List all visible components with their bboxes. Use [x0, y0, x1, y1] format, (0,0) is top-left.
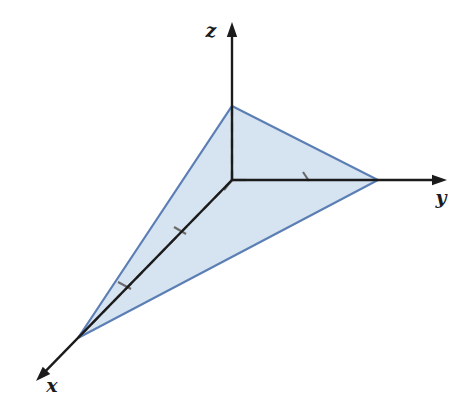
axis-x	[36, 180, 232, 381]
axis-label-y: y	[434, 186, 448, 208]
figure-canvas: x y z	[0, 0, 475, 415]
shaded-triangle-region	[78, 106, 378, 338]
axis-z-arrowhead	[227, 22, 237, 37]
axis-y-arrowhead	[432, 175, 447, 185]
axis-x-line	[45, 180, 232, 372]
axis-label-x: x	[45, 374, 58, 396]
coordinate-diagram: x y z	[0, 0, 475, 415]
axis-label-z: z	[205, 19, 218, 41]
